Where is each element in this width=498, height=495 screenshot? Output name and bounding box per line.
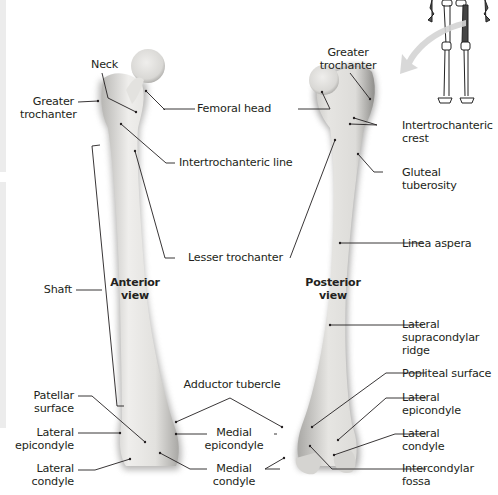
label-line: crest (402, 132, 493, 145)
view-title-line: view (106, 289, 164, 302)
direction-arrow-icon (400, 20, 466, 74)
label-lesser-trochanter: Lesser trochanter (188, 251, 283, 264)
label-line: fossa (402, 475, 474, 488)
label-line: Intercondylar (402, 462, 474, 475)
label-medial-condyle: Medial condyle (200, 462, 268, 488)
label-line: Lateral (402, 427, 444, 440)
label-line: Gluteal (402, 166, 457, 179)
label-line: epicondyle (402, 404, 461, 417)
label-line: trochanter (318, 59, 378, 72)
anterior-femur (98, 49, 181, 470)
label-line: Medial (200, 426, 268, 439)
label-patellar-surface: Patellar surface (20, 389, 74, 415)
label-line: Greater (20, 95, 74, 108)
label-gluteal-tuberosity: Gluteal tuberosity (402, 166, 457, 192)
label-line: Medial (200, 462, 268, 475)
label-line: Lateral (402, 318, 479, 331)
label-line: Lateral (10, 462, 74, 475)
skeleton-locator-icon (400, 0, 490, 103)
label-line: Lateral (402, 391, 461, 404)
label-line: condyle (402, 440, 444, 453)
label-lateral-condyle-posterior: Lateral condyle (402, 427, 444, 453)
label-line: Greater (318, 46, 378, 59)
label-lateral-epicondyle-anterior: Lateral epicondyle (10, 426, 74, 452)
view-title-line: Posterior (302, 276, 364, 289)
label-lateral-condyle-anterior: Lateral condyle (10, 462, 74, 488)
anterior-view-title: Anterior view (106, 276, 164, 302)
femur-diagram: Neck Greater trochanter Femoral head Int… (0, 0, 498, 495)
label-line: tuberosity (402, 179, 457, 192)
label-line: Patellar (20, 389, 74, 402)
label-femoral-head: Femoral head (197, 102, 271, 115)
label-line: ridge (402, 344, 479, 357)
label-intertrochanteric-crest: Intertrochanteric crest (402, 119, 493, 145)
view-title-line: view (302, 289, 364, 302)
label-greater-trochanter-posterior: Greater trochanter (318, 46, 378, 72)
label-shaft: Shaft (30, 283, 72, 296)
label-neck: Neck (91, 58, 118, 71)
label-line: trochanter (20, 108, 74, 121)
posterior-view-title: Posterior view (302, 276, 364, 302)
label-adductor-tubercle: Adductor tubercle (182, 378, 282, 391)
label-greater-trochanter-anterior: Greater trochanter (20, 95, 74, 121)
label-line: condyle (10, 475, 74, 488)
label-line: Intertrochanteric (402, 119, 493, 132)
label-line: Lateral (10, 426, 74, 439)
label-lateral-supracondylar-ridge: Lateral supracondylar ridge (402, 318, 479, 357)
label-linea-aspera: Linea aspera (402, 237, 471, 250)
label-intertrochanteric-line: Intertrochanteric line (179, 156, 293, 169)
label-line: surface (20, 402, 74, 415)
label-line: epicondyle (10, 439, 74, 452)
label-lateral-epicondyle-posterior: Lateral epicondyle (402, 391, 461, 417)
label-line: epicondyle (200, 439, 268, 452)
label-intercondylar-fossa: Intercondylar fossa (402, 462, 474, 488)
label-popliteal-surface: Popliteal surface (402, 367, 491, 380)
posterior-femur (296, 65, 377, 474)
label-line: supracondylar (402, 331, 479, 344)
label-line: condyle (200, 475, 268, 488)
view-title-line: Anterior (106, 276, 164, 289)
label-medial-epicondyle: Medial epicondyle (200, 426, 268, 452)
